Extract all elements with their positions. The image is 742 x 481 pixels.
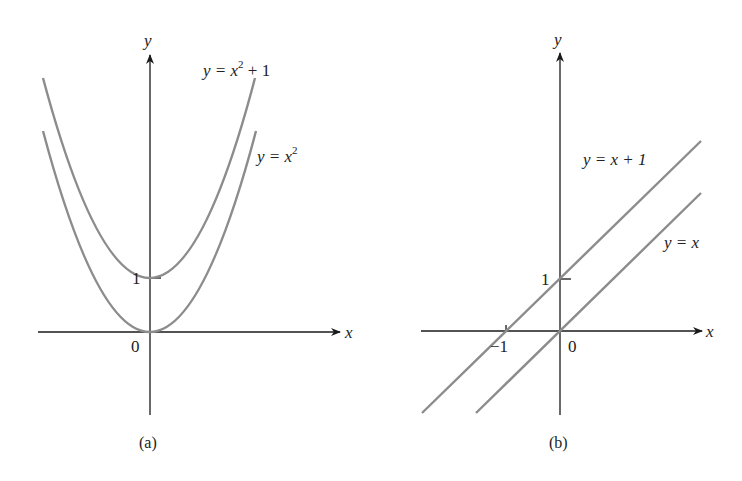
- panel-b: y x 0 1 −1 y = x + 1 y = x (b): [421, 30, 714, 452]
- label-x-squared: y = x2: [255, 144, 298, 166]
- caption-b: (b): [549, 434, 568, 452]
- y-tick-label-1: 1: [132, 269, 141, 288]
- origin-label: 0: [131, 337, 140, 356]
- x-axis-label: x: [344, 323, 353, 342]
- y-axis-label: y: [142, 31, 152, 50]
- figure: y x 0 1 y = x2 + 1 y = x2 (a) y x 0 1 −1…: [0, 0, 742, 481]
- origin-label: 0: [568, 337, 577, 356]
- curve-x-squared-plus-1: [43, 78, 255, 278]
- label-x-squared-plus-1: y = x2 + 1: [201, 58, 270, 80]
- line-x-plus-1: [422, 141, 701, 413]
- label-x-plus-1: y = x + 1: [581, 150, 647, 169]
- caption-a: (a): [139, 434, 157, 452]
- x-axis-label: x: [705, 322, 714, 341]
- label-x: y = x: [662, 233, 700, 252]
- line-x: [476, 193, 701, 413]
- x-tick-label-neg1: −1: [490, 337, 508, 356]
- y-tick-label-1: 1: [541, 270, 550, 289]
- panel-a: y x 0 1 y = x2 + 1 y = x2 (a): [38, 31, 353, 452]
- y-axis-label: y: [552, 30, 562, 49]
